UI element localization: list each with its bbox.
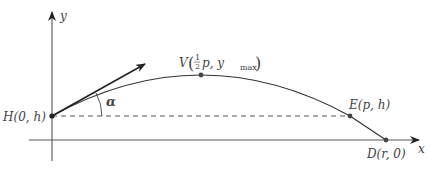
velocity-vector [52, 64, 145, 116]
point-V-label-mid: p, y [202, 56, 224, 70]
point-V-open-paren: ( [188, 54, 194, 73]
trajectory-curve [52, 75, 386, 140]
point-V [199, 73, 204, 78]
x-axis-label: x [418, 142, 425, 156]
angle-arc [96, 93, 102, 116]
angle-alpha-label: α [106, 94, 116, 109]
point-H-label: H(0, h) [2, 110, 46, 124]
point-V-close-paren: ) [255, 54, 261, 73]
point-E [348, 114, 353, 119]
point-V-label: V ( 1 2 p, y max ) [179, 53, 261, 73]
point-V-frac-num: 1 [195, 53, 200, 62]
y-axis-label: y [59, 9, 67, 23]
point-H [49, 113, 54, 118]
point-E-label: E(p, h) [348, 98, 390, 112]
trajectory-diagram: x y α H(0, h) V ( 1 2 p, y max ) E(p, h)… [0, 0, 437, 170]
point-D-label: D(r, 0) [366, 147, 406, 161]
point-V-frac-den: 2 [195, 62, 200, 71]
point-D [384, 138, 389, 143]
